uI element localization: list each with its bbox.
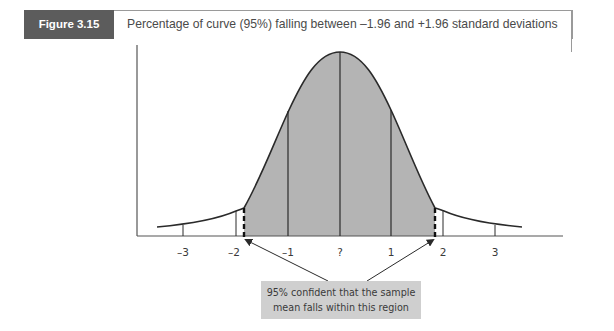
- confidence-callout: 95% confident that the sample mean falls…: [261, 281, 421, 319]
- tick-label: –2: [228, 246, 240, 258]
- arrow-to-plus-1-96: [367, 240, 433, 281]
- tick-label: ?: [337, 246, 343, 258]
- tick-label: –1: [282, 246, 294, 258]
- callout-line-2: mean falls within this region: [261, 300, 421, 315]
- tick-label: 1: [388, 246, 395, 258]
- callout-line-1: 95% confident that the sample: [261, 285, 421, 300]
- tick-label: 2: [440, 246, 447, 258]
- tick-label: –3: [177, 246, 189, 258]
- tick-label: 3: [492, 246, 499, 258]
